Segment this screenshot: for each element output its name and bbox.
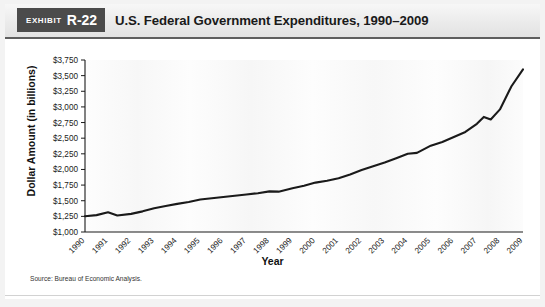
x-axis-tick-label: 1991: [90, 236, 110, 254]
x-axis-tick-label: 2001: [321, 236, 341, 254]
line-chart-svg: $1,000$1,250$1,500$1,750$2,000$2,250$2,5…: [0, 39, 545, 254]
x-axis-tick-label: 1998: [252, 236, 272, 254]
x-axis-tick-labels: 1990199119921993199419951996199719981999…: [67, 236, 525, 254]
plot-area-wrapper: Dollar Amount (in billions) Year $1,0: [0, 39, 545, 307]
exhibit-badge: Exhibit R-22: [17, 8, 105, 32]
x-axis-tick-label: 2008: [482, 236, 502, 254]
y-axis-tick-label: $3,000: [53, 103, 78, 112]
y-axis-tick-label: $2,500: [53, 134, 78, 143]
x-axis-tick-label: 1990: [67, 236, 87, 254]
x-axis-tick-label: 1999: [275, 236, 295, 254]
y-axis-tick-label: $2,750: [53, 119, 78, 128]
chart-title: U.S. Federal Government Expenditures, 19…: [115, 13, 428, 28]
y-axis-tick-label: $3,500: [53, 72, 78, 81]
x-axis-tick-label: 1993: [136, 236, 156, 254]
x-axis-tick-label: 1994: [159, 236, 179, 254]
x-axis-tick-label: 2000: [298, 236, 318, 254]
figure-bottom-divider: [5, 295, 540, 296]
y-axis-tick-label: $3,750: [53, 56, 78, 65]
x-axis-tick-label: 2003: [367, 236, 387, 254]
y-axis-tick-label: $2,000: [53, 165, 78, 174]
y-axis-tick-labels: $1,000$1,250$1,500$1,750$2,000$2,250$2,5…: [53, 56, 78, 237]
y-axis-tick-label: $1,000: [53, 228, 78, 237]
y-axis-tick-label: $2,250: [53, 150, 78, 159]
x-axis-tick-label: 1992: [113, 236, 133, 254]
y-axis-ticks: [81, 60, 85, 232]
x-axis-tick-label: 2002: [344, 236, 364, 254]
y-axis-tick-label: $1,750: [53, 181, 78, 190]
x-axis-tick-label: 2005: [413, 236, 433, 254]
y-axis-tick-label: $3,250: [53, 87, 78, 96]
exhibit-label: Exhibit: [26, 16, 62, 25]
source-note: Source: Bureau of Economic Analysis.: [30, 275, 142, 282]
plot-background: [85, 60, 523, 232]
x-axis-tick-label: 2006: [436, 236, 456, 254]
x-axis-tick-label: 2007: [459, 236, 479, 254]
x-axis-tick-label: 2004: [390, 236, 410, 254]
exhibit-figure: Exhibit R-22 U.S. Federal Government Exp…: [0, 0, 545, 307]
exhibit-number: R-22: [67, 12, 97, 28]
y-axis-tick-label: $1,500: [53, 197, 78, 206]
x-axis-tick-label: 1997: [229, 236, 249, 254]
y-axis-tick-label: $1,250: [53, 212, 78, 221]
x-axis-title: Year: [0, 255, 545, 267]
x-axis-tick-label: 1995: [182, 236, 202, 254]
x-axis-tick-label: 2009: [505, 236, 525, 254]
x-axis-tick-label: 1996: [205, 236, 225, 254]
